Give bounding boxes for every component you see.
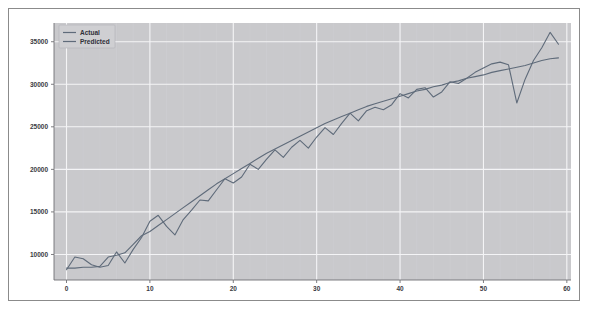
legend-label-predicted: Predicted — [80, 38, 110, 45]
legend-label-actual: Actual — [80, 29, 100, 36]
x-tick-label: 10 — [146, 285, 154, 292]
y-tick-label: 15000 — [30, 208, 48, 215]
plot-background — [54, 23, 571, 280]
y-tick-label: 30000 — [30, 81, 48, 88]
y-tick-label: 25000 — [30, 123, 48, 130]
y-tick-label: 10000 — [30, 251, 48, 258]
plot-background-group — [54, 23, 571, 280]
y-tick-label: 20000 — [30, 166, 48, 173]
chart-legend: ActualPredicted — [59, 25, 115, 48]
line-chart: 100001500020000250003000035000 010203040… — [9, 9, 581, 302]
x-tick-label: 30 — [313, 285, 321, 292]
y-tick-label: 35000 — [30, 38, 48, 45]
x-tick-label: 0 — [65, 285, 69, 292]
x-tick-label: 50 — [480, 285, 488, 292]
y-axis-tick-labels: 100001500020000250003000035000 — [30, 38, 54, 258]
x-tick-label: 40 — [396, 285, 404, 292]
x-axis-tick-labels: 0102030405060 — [65, 280, 571, 292]
x-tick-label: 60 — [563, 285, 571, 292]
x-tick-label: 20 — [230, 285, 238, 292]
chart-figure-frame: 100001500020000250003000035000 010203040… — [8, 8, 580, 301]
